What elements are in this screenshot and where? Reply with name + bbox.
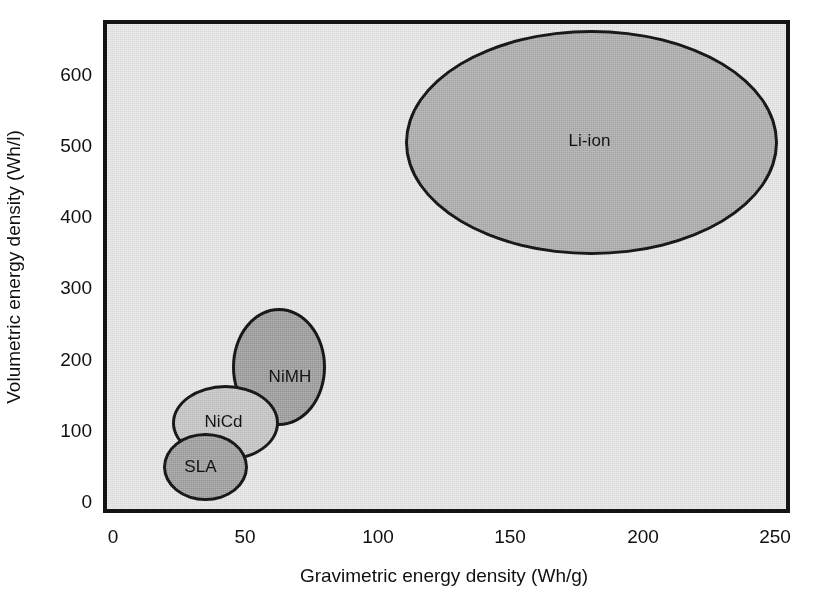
y-tick-label-300: 300 [60, 277, 92, 299]
x-tick-label-150: 150 [494, 526, 526, 548]
x-axis-title: Gravimetric energy density (Wh/g) [113, 565, 775, 587]
y-tick-label-0: 0 [81, 491, 92, 513]
y-tick-label-600: 600 [60, 64, 92, 86]
x-tick-label-50: 50 [234, 526, 255, 548]
x-tick-label-200: 200 [627, 526, 659, 548]
bubble-label-nicd: NiCd [204, 412, 242, 432]
chart-container: Volumetric energy density (Wh/l) 600 500… [0, 0, 814, 606]
plot-area: Li-ion NiMH NiCd SLA [103, 20, 790, 513]
bubble-label-li-ion: Li-ion [568, 131, 610, 151]
bubble-layer: Li-ion NiMH NiCd SLA [103, 20, 790, 513]
bubble-sla[interactable]: SLA [163, 433, 248, 501]
x-tick-label-100: 100 [362, 526, 394, 548]
y-tick-label-200: 200 [60, 349, 92, 371]
y-tick-label-100: 100 [60, 420, 92, 442]
y-tick-label-400: 400 [60, 206, 92, 228]
bubble-label-sla: SLA [184, 457, 216, 477]
bubble-label-nimh: NiMH [269, 367, 312, 387]
x-tick-label-250: 250 [759, 526, 791, 548]
x-tick-label-0: 0 [108, 526, 119, 548]
bubble-li-ion[interactable]: Li-ion [405, 30, 778, 255]
y-axis-title-text: Volumetric energy density (Wh/l) [3, 130, 25, 404]
y-tick-label-500: 500 [60, 135, 92, 157]
y-axis-title: Volumetric energy density (Wh/l) [0, 20, 28, 513]
